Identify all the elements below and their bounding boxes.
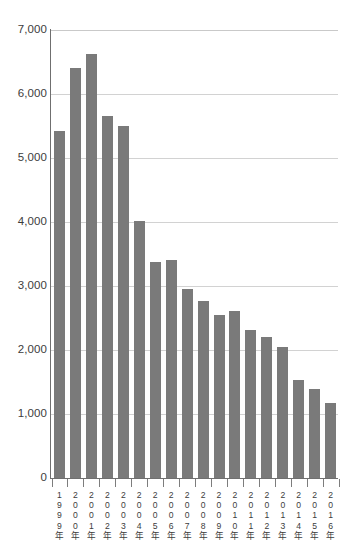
x-tick-10 [211,479,212,487]
x-tick-label-2003年: 2003年 [115,490,131,541]
bar-2016年 [325,403,336,478]
x-tick-label-2007年: 2007年 [179,490,195,541]
x-tick-2 [83,479,84,487]
x-tick-label-2014年: 2014年 [291,490,307,541]
x-tick-18 [339,479,340,487]
bar-2015年 [309,389,320,478]
x-tick-13 [259,479,260,487]
x-tick-label-1999年: 1999年 [52,490,68,541]
x-tick-label-2011年: 2011年 [243,490,259,541]
y-tick-label-0: 0 [1,472,47,484]
y-tick-label-3000: 3,000 [1,280,47,292]
bar-2003年 [118,126,129,478]
x-tick-label-2000年: 2000年 [67,490,83,541]
x-tick-label-2009年: 2009年 [211,490,227,541]
bar-2010年 [229,311,240,478]
x-axis-ticks [51,479,338,488]
x-tick-label-2012年: 2012年 [259,490,275,541]
bar-2014年 [293,380,304,478]
x-tick-11 [227,479,228,487]
x-tick-label-2013年: 2013年 [275,490,291,541]
x-tick-label-2002年: 2002年 [99,490,115,541]
x-tick-6 [147,479,148,487]
bar-2006年 [166,260,177,478]
x-tick-label-2004年: 2004年 [131,490,147,541]
x-tick-label-2008年: 2008年 [195,490,211,541]
bar-series [51,30,338,478]
y-tick-label-6000: 6,000 [1,88,47,100]
y-tick-label-1000: 1,000 [1,408,47,420]
bar-2008年 [198,301,209,478]
x-tick-label-2005年: 2005年 [147,490,163,541]
x-tick-5 [131,479,132,487]
y-tick-label-5000: 5,000 [1,152,47,164]
x-tick-7 [163,479,164,487]
x-tick-8 [179,479,180,487]
x-tick-1 [67,479,68,487]
x-axis-tick-labels: 1999年2000年2001年2002年2003年2004年2005年2006年… [51,490,338,552]
x-tick-15 [291,479,292,487]
bar-2005年 [150,262,161,478]
bar-2004年 [134,221,145,478]
x-tick-label-2016年: 2016年 [323,490,339,541]
y-tick-label-7000: 7,000 [1,24,47,36]
x-tick-17 [323,479,324,487]
x-tick-label-2006年: 2006年 [163,490,179,541]
bar-2001年 [86,54,97,478]
y-tick-label-4000: 4,000 [1,216,47,228]
bar-2011年 [245,330,256,478]
x-tick-label-2010年: 2010年 [227,490,243,541]
bar-1999年 [54,131,65,478]
x-tick-14 [275,479,276,487]
bar-2013年 [277,347,288,478]
y-axis-tick-labels: 7,0006,0005,0004,0003,0002,0001,0000 [0,0,47,558]
x-tick-3 [99,479,100,487]
x-tick-9 [195,479,196,487]
y-tick-label-2000: 2,000 [1,344,47,356]
bar-2009年 [214,315,225,478]
x-tick-16 [307,479,308,487]
x-tick-0 [52,479,53,487]
bar-2007年 [182,289,193,478]
bar-chart: 7,0006,0005,0004,0003,0002,0001,0000 199… [0,0,355,558]
bar-2002年 [102,116,113,478]
bar-2000年 [70,68,81,478]
x-tick-12 [243,479,244,487]
x-tick-label-2015年: 2015年 [307,490,323,541]
x-tick-label-2001年: 2001年 [83,490,99,541]
x-tick-4 [115,479,116,487]
bar-2012年 [261,337,272,478]
